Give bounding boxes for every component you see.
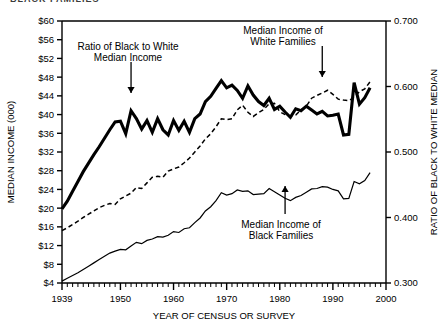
- annotations: Ratio of Black to WhiteMedian IncomeMedi…: [77, 25, 325, 241]
- y-ticklabel-right: 0.500: [394, 146, 418, 157]
- black-families-annotation-arrowhead: [281, 186, 288, 192]
- x-axis-label: YEAR OF CENSUS OR SURVEY: [153, 310, 296, 321]
- y-ticklabel-left: $20: [38, 203, 54, 214]
- y-ticklabel-left: $12: [38, 240, 54, 251]
- y-axis-label-left: MEDIAN INCOME (000): [5, 101, 16, 203]
- x-ticklabel: 1970: [216, 293, 237, 304]
- y-axis-right: 0.3000.4000.5000.6000.700RATIO OF BLACK …: [386, 15, 439, 288]
- x-ticklabel: 1960: [163, 293, 184, 304]
- ratio-annotation-line-0: Ratio of Black to White: [77, 41, 179, 52]
- series-line-1: [62, 82, 370, 231]
- y-ticklabel-left: $48: [38, 72, 54, 83]
- y-ticklabel-right: 0.600: [394, 81, 418, 92]
- y-ticklabel-left: $40: [38, 109, 54, 120]
- chart-figure: $4$8$12$16$20$24$28$32$36$40$44$48$52$56…: [0, 0, 447, 326]
- y-ticklabel-left: $60: [38, 15, 54, 26]
- black-families-annotation-line-1: Black Families: [249, 230, 313, 241]
- x-ticklabel: 1950: [110, 293, 131, 304]
- y-ticklabel-right: 0.400: [394, 212, 418, 223]
- x-ticklabel: 1990: [322, 293, 343, 304]
- y-ticklabel-right: 0.700: [394, 15, 418, 26]
- y-ticklabel-left: $16: [38, 221, 54, 232]
- white-families-annotation-arrowhead: [319, 71, 326, 77]
- white-families-annotation-line-0: Median Income of: [243, 25, 323, 36]
- series-group: [62, 81, 370, 282]
- y-ticklabel-left: $32: [38, 146, 54, 157]
- x-ticklabel: 1939: [51, 293, 72, 304]
- ratio-annotation-line-1: Median Income: [94, 52, 163, 63]
- ratio-annotation-arrowhead: [127, 87, 134, 93]
- y-ticklabel-left: $36: [38, 128, 54, 139]
- white-families-annotation-line-1: White Families: [250, 36, 316, 47]
- y-ticklabel-right: 0.300: [394, 277, 418, 288]
- x-ticklabel: 1980: [269, 293, 290, 304]
- y-ticklabel-left: $8: [43, 259, 54, 270]
- y-ticklabel-left: $44: [38, 90, 54, 101]
- x-ticklabel: 2000: [375, 293, 396, 304]
- y-ticklabel-left: $24: [38, 184, 54, 195]
- x-axis: 1939195019601970198019902000YEAR OF CENS…: [51, 283, 396, 321]
- y-ticklabel-left: $28: [38, 165, 54, 176]
- y-ticklabel-left: $4: [43, 277, 54, 288]
- y-ticklabel-left: $52: [38, 53, 54, 64]
- clipped-header-text: BLACK FAMILIES: [10, 0, 100, 4]
- black-families-annotation-line-0: Median Income of: [241, 219, 321, 230]
- series-line-0: [62, 81, 370, 209]
- y-axis-label-right: RATIO OF BLACK TO WHITE MEDIAN: [428, 69, 439, 235]
- chart-svg: $4$8$12$16$20$24$28$32$36$40$44$48$52$56…: [0, 0, 447, 326]
- series-line-2: [62, 173, 370, 282]
- y-ticklabel-left: $56: [38, 34, 54, 45]
- y-axis-left: $4$8$12$16$20$24$28$32$36$40$44$48$52$56…: [5, 15, 62, 288]
